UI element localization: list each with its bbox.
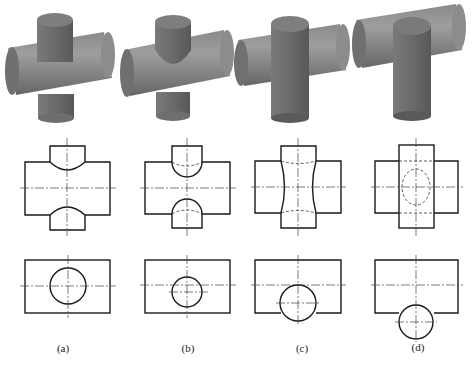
top-view-b bbox=[140, 255, 236, 318]
panel-label-d: (d) bbox=[412, 341, 425, 353]
front-view-c bbox=[251, 138, 346, 236]
top-view-a bbox=[20, 255, 116, 318]
panel-label-b: (b) bbox=[182, 342, 195, 354]
panel-label-a: (a) bbox=[57, 342, 69, 354]
3d-view-d bbox=[352, 4, 466, 121]
cylinder-intersection-drawing bbox=[0, 0, 472, 371]
figure-canvas: (a) (b) (c) (d) bbox=[0, 0, 472, 371]
front-view-a bbox=[20, 138, 116, 236]
top-view-c bbox=[251, 255, 346, 324]
panel-label-c: (c) bbox=[296, 342, 308, 354]
top-view-d bbox=[371, 255, 463, 342]
3d-view-c bbox=[234, 16, 350, 123]
3d-view-a bbox=[5, 13, 115, 123]
front-view-d bbox=[371, 138, 463, 236]
3d-view-b bbox=[120, 15, 234, 121]
front-view-b bbox=[140, 138, 236, 236]
